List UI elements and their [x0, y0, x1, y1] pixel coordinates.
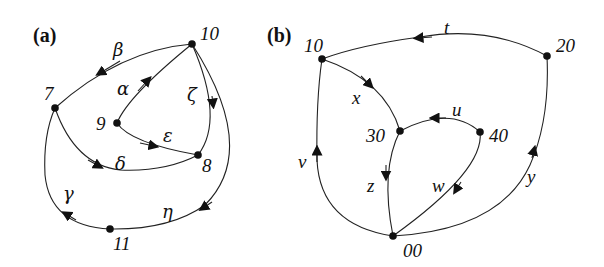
edge-label-t: t [444, 17, 450, 38]
edge-v [317, 59, 393, 236]
edge-epsilon [117, 123, 198, 155]
edge-delta [55, 108, 198, 170]
edge-t [322, 34, 547, 59]
edge-label-zeta: ζ [187, 84, 198, 105]
edge-x [322, 59, 400, 131]
edge-label-u: u [452, 99, 462, 120]
node-30 [396, 127, 404, 135]
graph-diagram: (a) β α ε ζ δ η γ 1 [0, 0, 604, 267]
edge-u [400, 118, 480, 132]
node-label-20: 20 [556, 35, 576, 56]
edge-label-v: v [298, 151, 307, 172]
node-label-40: 40 [489, 125, 509, 146]
arrow-w-icon [456, 182, 461, 190]
edge-label-z: z [366, 175, 375, 196]
edge-label-eta: η [162, 201, 173, 222]
node-label-9: 9 [96, 113, 106, 134]
arrow-beta-icon [100, 61, 120, 73]
node-8 [194, 151, 202, 159]
node-7 [51, 104, 59, 112]
edge-label-gamma: γ [63, 183, 74, 204]
node-00 [389, 232, 397, 240]
edge-z [388, 131, 400, 236]
edge-label-beta: β [112, 39, 123, 60]
node-9 [113, 119, 121, 127]
arrow-alpha-icon [138, 80, 148, 91]
node-label-7: 7 [44, 83, 55, 104]
arrow-zeta-icon [212, 96, 213, 104]
edge-label-x: x [351, 87, 361, 108]
panel-a-label: (a) [33, 24, 56, 47]
panel-b-label: (b) [267, 24, 291, 47]
node-label-00: 00 [403, 240, 423, 261]
node-11 [106, 225, 114, 233]
edge-label-y: y [525, 166, 536, 187]
node-label-10: 10 [304, 35, 324, 56]
node-10 [318, 55, 326, 63]
edge-label-alpha: α [117, 78, 129, 99]
node-10 [188, 40, 196, 48]
node-label-11: 11 [113, 233, 131, 254]
edge-y [393, 56, 547, 236]
edge-label-delta: δ [115, 153, 126, 174]
node-20 [543, 52, 551, 60]
edge-label-epsilon: ε [163, 125, 173, 146]
edge-label-w: w [432, 175, 445, 196]
node-label-30: 30 [365, 125, 386, 146]
node-label-8: 8 [202, 155, 212, 176]
panel-a: (a) β α ε ζ δ η γ 1 [33, 23, 230, 254]
panel-b: (b) t x u z w v y 1 [267, 17, 576, 261]
node-40 [476, 128, 484, 136]
arrow-x-icon [361, 76, 370, 85]
node-label-10: 10 [200, 23, 220, 44]
